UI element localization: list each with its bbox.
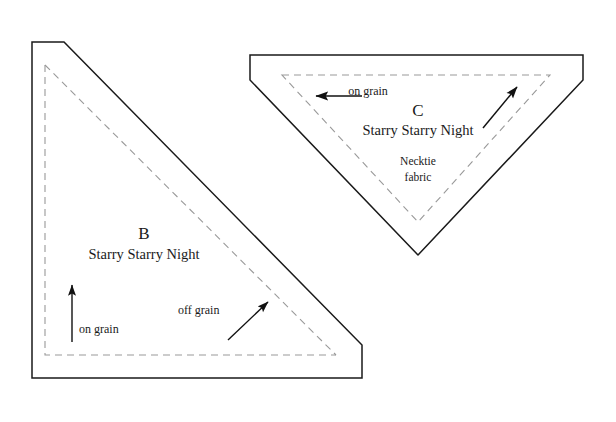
piece-c-fabric-note-line1: Necktie <box>387 155 449 169</box>
pattern-canvas: B Starry Starry Night on grain off grain… <box>0 0 616 422</box>
piece-c-fabric-note-line2: fabric <box>387 171 449 185</box>
piece-c-on-grain-label: on grain <box>340 84 396 98</box>
piece-b-fabric-title: Starry Starry Night <box>74 246 214 263</box>
piece-b-off-grain-label: off grain <box>178 303 242 317</box>
piece-b-on-grain-label: on grain <box>79 322 145 336</box>
piece-b-letter: B <box>114 224 174 244</box>
pattern-drawing <box>0 0 616 422</box>
piece-c-letter: C <box>401 101 435 121</box>
piece-c-fabric-title: Starry Starry Night <box>348 122 488 139</box>
